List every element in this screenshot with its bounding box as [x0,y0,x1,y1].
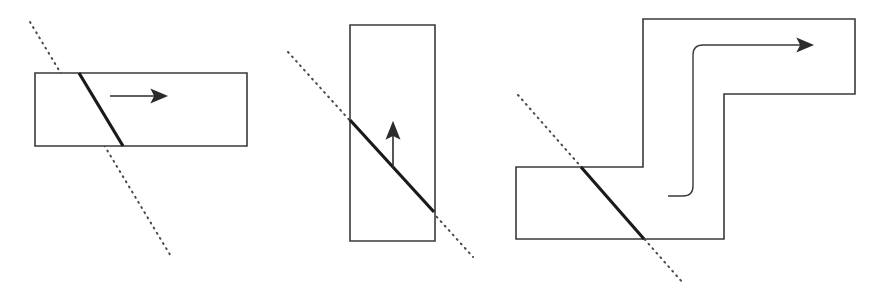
diagram-canvas [0,0,882,294]
figure-1-outline [35,73,247,146]
diagram-root [0,0,882,294]
